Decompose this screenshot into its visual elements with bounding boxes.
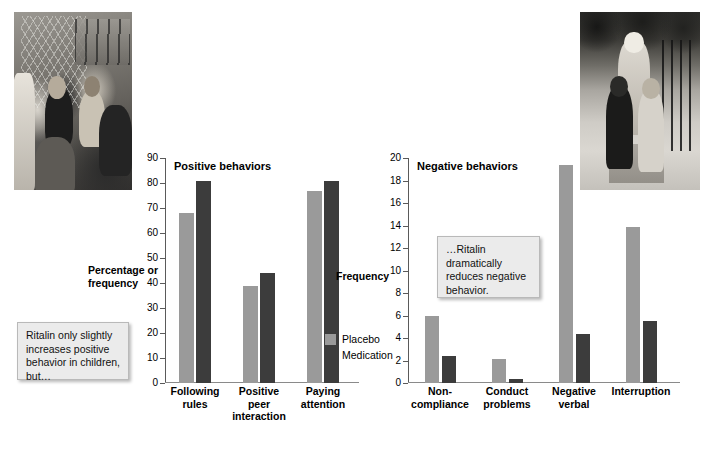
y-tick-label: 18 — [390, 176, 401, 186]
y-tick-label: 0 — [395, 378, 401, 388]
bar-medication-1 — [509, 379, 523, 384]
legend-item-medication: Medication — [325, 349, 413, 361]
y-tick-label: 20 — [390, 153, 401, 163]
y-tick — [160, 258, 165, 259]
bar-placebo-0 — [179, 213, 194, 383]
y-tick — [403, 203, 408, 204]
y-tick — [160, 308, 165, 309]
child-head — [48, 76, 66, 99]
y-tick-label: 8 — [395, 288, 401, 298]
y-tick — [160, 208, 165, 209]
y-tick — [160, 283, 165, 284]
y-axis-line — [165, 158, 166, 383]
legend-swatch-medication — [325, 350, 336, 361]
y-tick-label: 14 — [390, 221, 401, 231]
bar-placebo-3 — [626, 227, 640, 383]
chart-title: Positive behaviors — [174, 160, 271, 172]
y-tick-label: 6 — [395, 311, 401, 321]
bar-placebo-1 — [243, 286, 258, 384]
legend-label: Placebo — [342, 333, 380, 345]
y-tick-label: 70 — [147, 203, 158, 213]
y-tick-label: 16 — [390, 198, 401, 208]
chart-legend: PlaceboMedication — [325, 333, 413, 365]
y-tick — [403, 316, 408, 317]
x-axis-label: Interruption — [608, 385, 674, 398]
y-tick-label: 50 — [147, 253, 158, 263]
y-tick — [160, 383, 165, 384]
y-tick-label: 12 — [390, 243, 401, 253]
legend-label: Medication — [342, 349, 393, 361]
y-tick-label: 0 — [152, 378, 158, 388]
y-tick — [403, 383, 408, 384]
y-tick-label: 80 — [147, 178, 158, 188]
y-tick — [403, 158, 408, 159]
railing-texture — [75, 19, 129, 65]
child-figure — [606, 87, 632, 169]
figure-root: Ritalin only slightly increases positive… — [0, 0, 719, 453]
x-axis-label: Non-compliance — [407, 385, 473, 410]
x-axis-label: Negative verbal — [541, 385, 607, 410]
y-tick — [403, 226, 408, 227]
y-tick-label: 90 — [147, 153, 158, 163]
y-tick — [160, 233, 165, 234]
legend-swatch-placebo — [325, 334, 336, 345]
y-tick-label: 20 — [147, 328, 158, 338]
bar-medication-1 — [260, 273, 275, 383]
bar-medication-2 — [576, 334, 590, 384]
y-tick — [160, 333, 165, 334]
adult-figure — [14, 73, 35, 190]
y-tick-label: 30 — [147, 303, 158, 313]
x-axis-label: Following rules — [165, 385, 225, 410]
bar-placebo-2 — [559, 165, 573, 383]
bar-placebo-0 — [425, 316, 439, 384]
bar-placebo-2 — [307, 191, 322, 384]
y-tick-label: 60 — [147, 228, 158, 238]
y-tick — [160, 183, 165, 184]
adult-head — [624, 32, 643, 53]
bar-placebo-1 — [492, 359, 506, 383]
legend-item-placebo: Placebo — [325, 333, 413, 345]
y-tick — [403, 293, 408, 294]
bar-medication-3 — [643, 321, 657, 383]
chart-title: Negative behaviors — [417, 160, 518, 172]
x-axis-label: Positive peer interaction — [229, 385, 289, 423]
y-tick — [160, 358, 165, 359]
y-tick — [403, 271, 408, 272]
bar-medication-0 — [196, 181, 211, 384]
y-tick — [403, 181, 408, 182]
y-tick — [403, 248, 408, 249]
plot-area-negative: Negative behaviors 02468101214161820 Non… — [408, 158, 680, 383]
x-axis-label: Conduct problems — [474, 385, 540, 410]
child-figure — [35, 137, 75, 190]
y-tick-label: 10 — [147, 353, 158, 363]
y-tick-label: 40 — [147, 278, 158, 288]
y-tick — [160, 158, 165, 159]
iron-gate — [662, 40, 698, 150]
y-tick-label: 10 — [390, 266, 401, 276]
bar-medication-0 — [442, 356, 456, 383]
negative-behaviors-chart: Frequency Negative behaviors 02468101214… — [336, 158, 708, 413]
